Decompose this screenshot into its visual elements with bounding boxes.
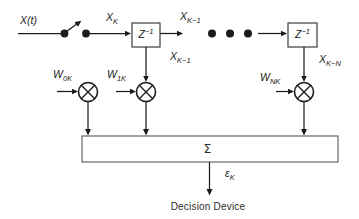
tap-1-label: XK−1: [169, 50, 191, 65]
multiplier-n-icon: [295, 83, 314, 102]
summer-label: Σ: [204, 141, 212, 156]
tap-1-top-label: XK−1: [179, 10, 201, 25]
decision-device-label: Decision Device: [171, 201, 246, 212]
ellipsis-dots-icon: [208, 30, 252, 38]
sampler-switch-icon: [61, 24, 90, 37]
tap-n-label: XK−N: [318, 53, 341, 68]
switch-arm: [67, 24, 77, 31]
sampled-signal-label: XK: [105, 11, 119, 26]
input-signal-label: X(t): [19, 14, 37, 26]
weight-1-label: W1K: [107, 68, 127, 83]
multiplier-1-icon: [137, 83, 156, 102]
adaptive-filter-diagram: Z−1 Z−1: [0, 0, 359, 219]
diagram-canvas: Z−1 Z−1: [0, 0, 359, 219]
multiplier-0-icon: [79, 83, 98, 102]
weight-n-label: WNK: [260, 71, 281, 86]
error-signal-label: εK: [225, 167, 236, 182]
weight-0-label: W0K: [53, 68, 73, 83]
